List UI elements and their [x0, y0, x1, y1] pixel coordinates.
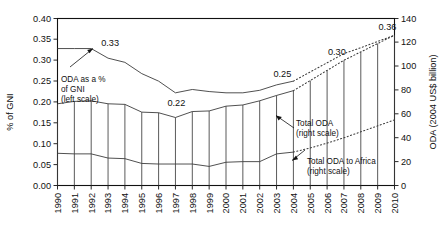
chart-container: 0.00 0.05 0.10 0.15 0.20 0.25 0.30 0.35 … [0, 0, 443, 225]
right-axis-title: ODA (2004 US$ billion) [428, 55, 438, 150]
left-tick-label-5: 0.25 [33, 76, 51, 86]
oda-pct-gni-annotation: ODA as a % of GNI (left scale) [61, 49, 106, 105]
right-tick-label-7: 140 [401, 14, 416, 24]
value-labels-layer: 0.330.220.250.300.36 [101, 22, 396, 107]
x-tick-label-1990: 1990 [53, 193, 63, 213]
total-oda-africa-annotation-line2: (right scale) [307, 167, 350, 176]
x-tick-label-1998: 1998 [188, 193, 198, 213]
left-tick-label-7: 0.35 [33, 34, 51, 44]
total-oda-annotation-line2: (right scale) [296, 129, 339, 138]
oda-pct-gni-annotation-line1: ODA as a % [61, 75, 106, 84]
left-tick-label-4: 0.20 [33, 97, 51, 107]
total-oda-annotation-line1: Total ODA [296, 119, 334, 128]
x-tick-label-2005: 2005 [306, 193, 316, 213]
total-oda-annotation: Total ODA (right scale) [276, 116, 339, 139]
left-tick-label-1: 0.05 [33, 160, 51, 170]
value-label-0-30: 0.30 [328, 47, 346, 57]
x-tick-label-1999: 1999 [205, 193, 215, 213]
right-tick-label-2: 40 [401, 133, 411, 143]
right-tick-label-6: 120 [401, 37, 416, 47]
total-oda-africa-annotation-line1: Total ODA to Africa [307, 157, 376, 166]
x-tick-label-2006: 2006 [323, 193, 333, 213]
x-axis: 1990199119921993199419951996199719981999… [53, 186, 400, 214]
left-axis-title: % of GNI [5, 93, 15, 130]
right-tick-label-3: 60 [401, 109, 411, 119]
left-tick-label-2: 0.10 [33, 139, 51, 149]
left-tick-label-0: 0.00 [33, 181, 51, 191]
x-tick-label-1994: 1994 [120, 193, 130, 213]
x-tick-label-2000: 2000 [221, 193, 231, 213]
total-oda-africa-annotation: Total ODA to Africa (right scale) [292, 150, 376, 176]
x-tick-label-2001: 2001 [238, 193, 248, 213]
x-tick-label-1997: 1997 [171, 193, 181, 213]
oda-gni-chart: 0.00 0.05 0.10 0.15 0.20 0.25 0.30 0.35 … [0, 0, 443, 225]
right-tick-label-1: 20 [401, 157, 411, 167]
x-tick-label-1991: 1991 [70, 193, 80, 213]
value-label-0-36: 0.36 [379, 22, 397, 32]
value-label-0-22: 0.22 [167, 98, 185, 108]
series-line-0 [58, 49, 294, 93]
x-tick-label-2002: 2002 [255, 193, 265, 213]
oda-pct-gni-annotation-line2: of GNI [61, 85, 85, 94]
x-tick-label-2010: 2010 [390, 193, 400, 213]
left-tick-label-6: 0.30 [33, 55, 51, 65]
x-tick-label-2009: 2009 [373, 193, 383, 213]
right-tick-label-5: 100 [401, 61, 416, 71]
x-tick-label-1993: 1993 [103, 193, 113, 213]
right-tick-label-4: 80 [401, 85, 411, 95]
right-axis: 0 20 40 60 80 100 120 140 ODA (2004 US$ … [395, 14, 439, 191]
left-tick-label-8: 0.40 [33, 14, 51, 24]
value-label-0-33: 0.33 [101, 38, 119, 48]
right-tick-label-0: 0 [401, 181, 406, 191]
left-tick-label-3: 0.15 [33, 118, 51, 128]
left-axis: 0.00 0.05 0.10 0.15 0.20 0.25 0.30 0.35 … [5, 14, 58, 191]
x-tick-label-2008: 2008 [356, 193, 366, 213]
x-tick-label-1996: 1996 [154, 193, 164, 213]
value-label-0-25: 0.25 [273, 69, 291, 79]
oda-pct-gni-annotation-line3: (left scale) [61, 95, 99, 104]
x-tick-label-1992: 1992 [87, 193, 97, 213]
x-tick-label-2007: 2007 [339, 193, 349, 213]
x-tick-label-1995: 1995 [137, 193, 147, 213]
x-tick-label-2003: 2003 [272, 193, 282, 213]
x-tick-label-2004: 2004 [289, 193, 299, 213]
